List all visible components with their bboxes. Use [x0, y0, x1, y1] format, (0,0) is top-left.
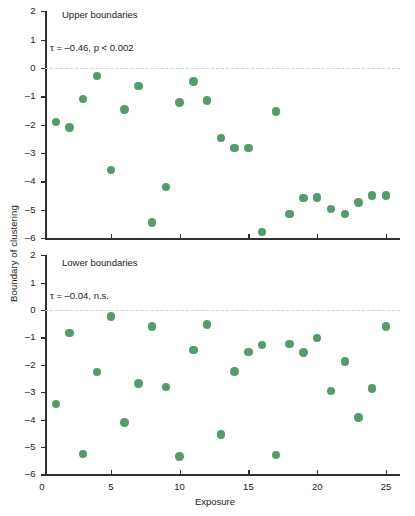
y-tick — [41, 125, 45, 126]
stat-text-upper: τ = –0.46, p < 0.002 — [50, 42, 134, 53]
data-point — [285, 210, 293, 218]
y-tick-label: –5 — [9, 204, 35, 215]
data-point — [341, 357, 349, 365]
data-point — [65, 123, 73, 131]
y-tick — [41, 153, 45, 154]
data-point — [327, 387, 335, 395]
y-tick-label: 0 — [9, 304, 35, 315]
x-tick — [111, 234, 112, 238]
data-point — [203, 96, 211, 104]
data-point — [313, 193, 321, 201]
data-point — [107, 166, 115, 174]
y-tick-label: –6 — [9, 468, 35, 479]
data-point — [327, 205, 335, 213]
x-tick-label: 15 — [235, 481, 261, 492]
data-point — [203, 320, 211, 328]
x-tick — [317, 234, 318, 238]
data-point — [217, 430, 225, 438]
y-tick-label: 2 — [9, 249, 35, 260]
zero-reference-line — [45, 68, 399, 69]
x-tick-label: 25 — [373, 481, 399, 492]
y-tick — [41, 255, 45, 256]
data-point — [134, 379, 142, 387]
data-point — [258, 341, 266, 349]
data-point — [368, 191, 376, 199]
data-point — [368, 384, 376, 392]
y-tick — [41, 365, 45, 366]
x-tick — [111, 470, 112, 474]
data-point — [230, 367, 238, 375]
data-point — [93, 368, 101, 376]
data-point — [52, 118, 60, 126]
x-tick — [180, 470, 181, 474]
y-tick-label: –3 — [9, 147, 35, 158]
panel-title-upper: Upper boundaries — [62, 9, 138, 20]
y-axis-line — [45, 11, 46, 238]
y-tick — [41, 181, 45, 182]
x-tick — [248, 470, 249, 474]
y-tick-label: 1 — [9, 277, 35, 288]
y-tick — [41, 96, 45, 97]
y-tick-label: –6 — [9, 232, 35, 243]
x-tick — [248, 234, 249, 238]
y-tick-label: –3 — [9, 386, 35, 397]
data-point — [79, 95, 87, 103]
data-point — [244, 348, 252, 356]
y-tick-label: –2 — [9, 359, 35, 370]
data-point — [120, 418, 128, 426]
data-point — [285, 340, 293, 348]
x-tick-label: 0 — [29, 481, 55, 492]
data-point — [354, 198, 362, 206]
data-point — [382, 322, 390, 330]
data-point — [299, 194, 307, 202]
y-tick — [41, 238, 45, 239]
data-point — [189, 346, 197, 354]
data-point — [52, 400, 60, 408]
data-point — [107, 312, 115, 320]
data-point — [354, 413, 362, 421]
x-tick-label: 10 — [167, 481, 193, 492]
data-point — [258, 228, 266, 236]
y-tick — [41, 420, 45, 421]
x-axis-line — [45, 238, 399, 240]
y-tick — [41, 392, 45, 393]
y-tick — [41, 447, 45, 448]
y-tick — [41, 474, 45, 475]
y-axis-line — [45, 255, 46, 474]
x-axis-label: Exposure — [155, 496, 275, 507]
data-point — [272, 451, 280, 459]
data-point — [244, 144, 252, 152]
x-tick — [386, 234, 387, 238]
y-tick-label: –4 — [9, 175, 35, 186]
data-point — [134, 82, 142, 90]
data-point — [65, 329, 73, 337]
panel-stat-upper: τ = –0.46, p < 0.002 — [50, 42, 134, 53]
data-point — [162, 383, 170, 391]
y-tick-label: –2 — [9, 119, 35, 130]
panel-title-lower: Lower boundaries — [62, 257, 138, 268]
stat-text-lower: τ = –0.04, n.s. — [50, 290, 109, 301]
x-tick — [317, 470, 318, 474]
y-tick — [41, 11, 45, 12]
data-point — [217, 134, 225, 142]
data-point — [148, 322, 156, 330]
data-point — [230, 144, 238, 152]
data-point — [79, 450, 87, 458]
data-point — [162, 183, 170, 191]
panel-lower-boundaries: Lower boundaries τ = –0.04, n.s. 210–1–2… — [0, 248, 415, 516]
data-point — [148, 218, 156, 226]
data-point — [341, 210, 349, 218]
data-point — [272, 107, 280, 115]
data-point — [175, 452, 183, 460]
y-tick-label: 0 — [9, 62, 35, 73]
x-tick — [386, 470, 387, 474]
data-point — [93, 72, 101, 80]
x-tick-label: 5 — [98, 481, 124, 492]
y-tick-label: 2 — [9, 5, 35, 16]
figure-container: Boundary of clustering Upper boundaries … — [0, 0, 415, 516]
data-point — [189, 77, 197, 85]
y-tick-label: –1 — [9, 90, 35, 101]
y-tick-label: 1 — [9, 34, 35, 45]
data-point — [382, 191, 390, 199]
panel-stat-lower: τ = –0.04, n.s. — [50, 290, 109, 301]
